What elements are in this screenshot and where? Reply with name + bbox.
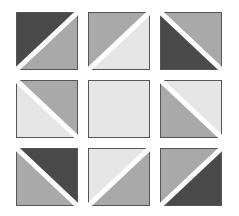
quilt-tile <box>16 148 78 206</box>
quilt-tile <box>160 80 222 138</box>
quilt-tile <box>88 80 150 138</box>
quilt-tile <box>16 12 78 70</box>
quilt-tile <box>16 80 78 138</box>
quilt-tile <box>160 12 222 70</box>
quilt-tile <box>88 12 150 70</box>
quilt-tile <box>160 148 222 206</box>
quilt-tile <box>88 148 150 206</box>
